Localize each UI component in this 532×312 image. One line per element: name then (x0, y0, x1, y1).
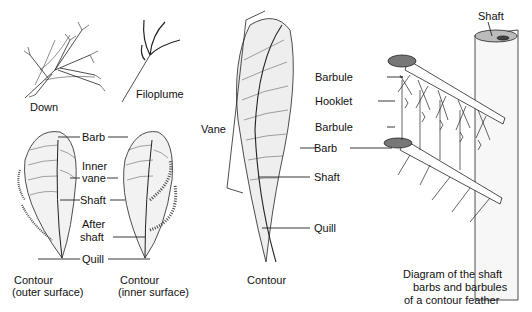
down-caption: Down (30, 101, 58, 113)
after-shaft-label-1: After (82, 218, 105, 230)
shaft-label-large: Shaft (314, 171, 340, 183)
inner-vane-label-2: vane (82, 172, 106, 184)
barb-label: Barb (82, 131, 105, 143)
structure-caption-2: barbs and barbules (413, 281, 507, 293)
feather-diagram-artwork (0, 0, 532, 312)
barb-label-structure: Barb (314, 142, 337, 154)
contour-large-caption: Contour (247, 274, 286, 286)
quill-label-pair: Quill (82, 253, 104, 265)
structure-illustration (384, 30, 518, 300)
contour-outer-caption-2: (outer surface) (12, 286, 84, 298)
contour-inner-illustration (124, 132, 176, 258)
filoplume-caption: Filoplume (136, 88, 184, 100)
structure-caption-3: of a contour feather (404, 294, 499, 306)
contour-inner-caption-2: (inner surface) (118, 286, 189, 298)
vane-label: Vane (201, 123, 226, 135)
structure-caption-1: Diagram of the shaft (403, 268, 502, 280)
hooklet-label: Hooklet (315, 95, 352, 107)
shaft-label-structure: Shaft (478, 10, 504, 22)
contour-outer-caption-1: Contour (14, 274, 53, 286)
quill-label-large: Quill (314, 222, 336, 234)
contour-outer-illustration (18, 132, 76, 258)
shaft-label-pair: Shaft (80, 194, 106, 206)
inner-vane-label-1: Inner (82, 160, 107, 172)
contour-inner-caption-1: Contour (120, 274, 159, 286)
contour-large-illustration (227, 11, 293, 262)
after-shaft-label-2: shaft (80, 231, 104, 243)
down-feather-illustration (24, 22, 105, 98)
barbule-label-bottom: Barbule (315, 121, 353, 133)
barbule-label-top: Barbule (315, 71, 353, 83)
